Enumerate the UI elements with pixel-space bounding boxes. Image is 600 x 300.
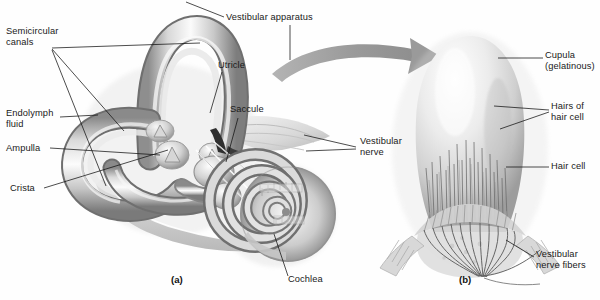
label-semicircular-canals: Semicircular canals [6, 26, 58, 47]
label-cupula-gelatinous: Cupula (gelatinous) [545, 50, 595, 71]
label-vestibular-nerve-fibers: Vestibular nerve fibers [536, 249, 586, 270]
illustration-layer [0, 0, 600, 300]
ampulla-upper [155, 141, 189, 169]
label-crista: Crista [10, 183, 35, 194]
panel-label-b: (b) [459, 274, 471, 285]
label-cochlea: Cochlea [288, 274, 323, 285]
label-utricle: Utricle [218, 60, 245, 71]
panel-b-illustration [380, 32, 560, 285]
label-vestibular-apparatus: Vestibular apparatus [226, 12, 313, 23]
label-ampulla: Ampulla [6, 143, 40, 154]
panel-label-a: (a) [171, 274, 183, 285]
ampulla-left [146, 120, 174, 142]
label-vestibular-nerve: Vestibular nerve [360, 136, 402, 157]
figure-root: Semicircular canals Endolymph fluid Ampu… [0, 0, 600, 300]
label-endolymph-fluid: Endolymph fluid [6, 108, 53, 129]
label-hairs-of-hair-cell: Hairs of hair cell [551, 101, 584, 122]
label-saccule: Saccule [230, 104, 264, 115]
label-hair-cell: Hair cell [551, 161, 585, 172]
